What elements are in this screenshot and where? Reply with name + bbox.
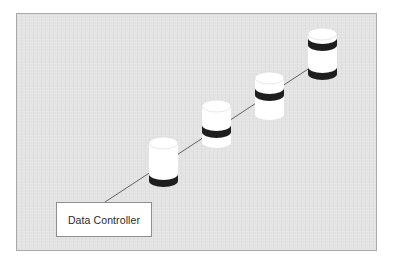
disk-1-icon — [149, 137, 178, 187]
data-controller-box: Data Controller — [56, 202, 152, 237]
disk-2-icon — [202, 100, 231, 148]
disk-4-icon — [308, 28, 337, 80]
disk-3-icon — [255, 72, 284, 120]
data-controller-label: Data Controller — [68, 214, 140, 226]
